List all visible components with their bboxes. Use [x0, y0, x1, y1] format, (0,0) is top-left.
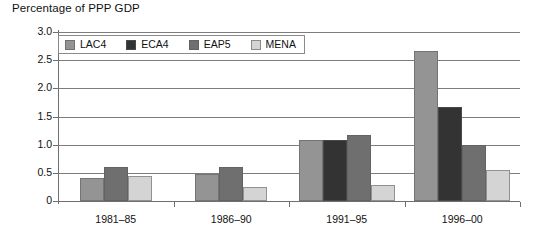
- chart-page: Percentage of PPP GDP 00.51.01.52.02.53.…: [0, 0, 540, 242]
- x-tick-mark: [174, 202, 175, 207]
- y-tick-label: 3.0: [14, 25, 52, 37]
- y-tick-label: 0.5: [14, 166, 52, 178]
- chart-legend: LAC4ECA4EAP5MENA: [58, 35, 305, 54]
- bar-group: [80, 32, 152, 201]
- bar-mena: [486, 170, 510, 201]
- bar-eap5: [347, 135, 371, 201]
- legend-swatch-icon: [251, 40, 261, 50]
- bar-group: [414, 32, 510, 201]
- bar-mena: [128, 176, 152, 201]
- y-tick-label: 1.5: [14, 110, 52, 122]
- x-tick-mark: [405, 202, 406, 207]
- bar-eca4: [323, 140, 347, 201]
- bar-mena: [243, 187, 267, 201]
- legend-item-eca4[interactable]: ECA4: [126, 39, 168, 50]
- x-tick-label: 1981–85: [56, 213, 176, 225]
- bar-lac4: [195, 174, 219, 201]
- bar-eca4: [438, 107, 462, 201]
- bar-eap5: [462, 145, 486, 201]
- legend-item-mena[interactable]: MENA: [251, 39, 296, 50]
- legend-item-eap5[interactable]: EAP5: [189, 39, 231, 50]
- legend-item-lac4[interactable]: LAC4: [65, 39, 106, 50]
- bar-group: [299, 32, 395, 201]
- bar-lac4: [80, 178, 104, 201]
- x-tick-label: 1991–95: [287, 213, 407, 225]
- bar-eap5: [219, 167, 243, 201]
- x-tick-label: 1986–90: [171, 213, 291, 225]
- y-tick-label: 2.5: [14, 53, 52, 65]
- bar-eap5: [104, 167, 128, 201]
- legend-swatch-icon: [65, 40, 75, 50]
- legend-swatch-icon: [126, 40, 136, 50]
- plot-area: [58, 32, 520, 202]
- legend-label: ECA4: [141, 39, 168, 50]
- bar-group: [195, 32, 267, 201]
- legend-label: MENA: [266, 39, 296, 50]
- legend-swatch-icon: [189, 40, 199, 50]
- legend-label: EAP5: [204, 39, 231, 50]
- x-tick-mark: [289, 202, 290, 207]
- legend-label: LAC4: [80, 39, 106, 50]
- x-tick-mark: [520, 202, 521, 207]
- bar-lac4: [414, 51, 438, 201]
- bar-lac4: [299, 140, 323, 201]
- bar-mena: [371, 185, 395, 201]
- y-tick-label: 2.0: [14, 81, 52, 93]
- x-tick-label: 1996–00: [402, 213, 522, 225]
- y-tick-label: 1.0: [14, 138, 52, 150]
- y-tick-label: 0: [14, 194, 52, 206]
